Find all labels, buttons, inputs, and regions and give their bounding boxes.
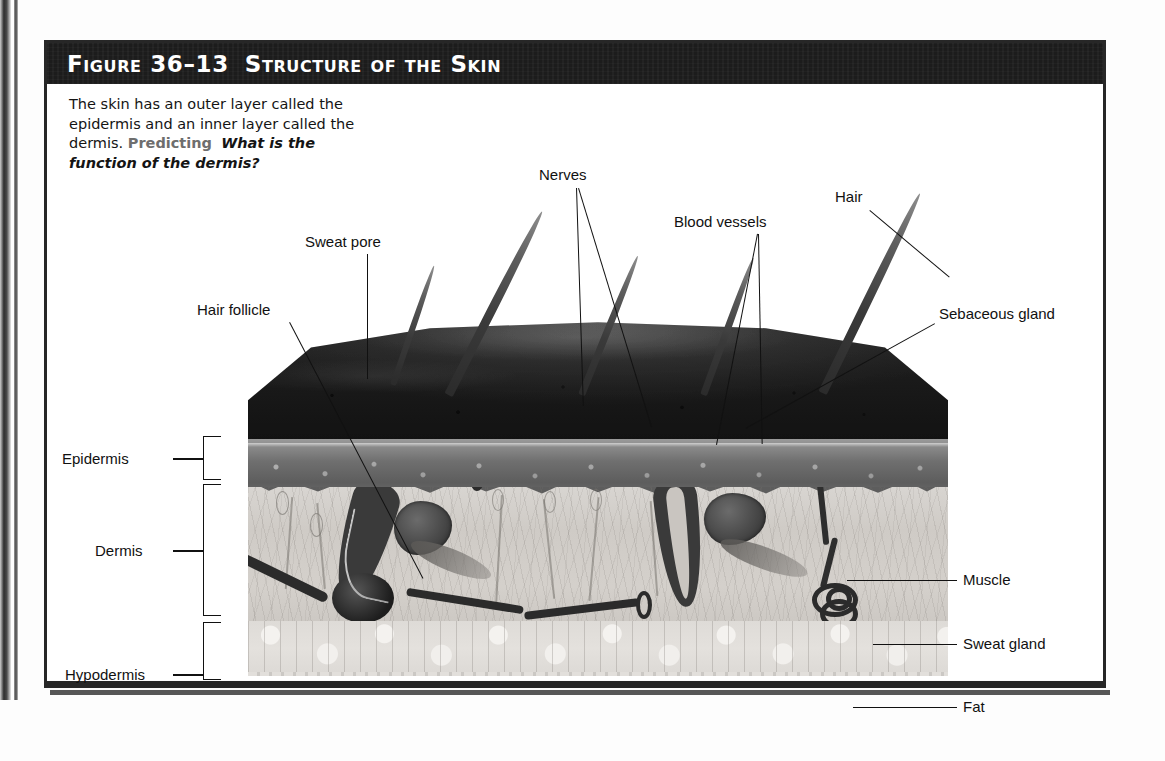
figure-box: Figure 36–13Structure of the Skin The sk… (44, 40, 1106, 688)
epidermis-label: Epidermis (62, 451, 129, 466)
hair-follicle-label: Hair follicle (197, 302, 270, 317)
page-gutter-bar-inner (14, 0, 18, 700)
hair-label: Hair (835, 189, 863, 204)
sensory-corpuscle (492, 489, 504, 511)
sweat-pore-label: Sweat pore (305, 234, 381, 249)
dermis-bracket-leader (173, 550, 203, 552)
hypodermis-label: Hypodermis (65, 667, 145, 682)
hypodermis-bracket (203, 622, 221, 680)
blood-vessels-label: Blood vessels (674, 214, 767, 229)
hypodermis-layer (248, 621, 948, 676)
dermis-layer (248, 487, 948, 629)
muscle-label: Muscle (963, 572, 1011, 587)
figure-title-text: Structure of the Skin (245, 51, 501, 77)
fat-cell-outlines (248, 621, 948, 676)
hypodermis-bracket-leader (173, 674, 203, 676)
sweat-gland-coil (826, 587, 852, 611)
dermis-bracket (203, 484, 221, 616)
skin-diagram: Epidermis Dermis Hypodermis Sweat pore N… (47, 84, 1109, 684)
figure-title-bar: Figure 36–13Structure of the Skin (47, 43, 1103, 84)
page-gutter-bar (0, 0, 11, 700)
nerves-label: Nerves (539, 167, 587, 182)
sweat-pore-leader (367, 254, 368, 379)
sensory-corpuscle (276, 491, 289, 515)
textbook-page: Figure 36–13Structure of the Skin The sk… (0, 0, 1165, 761)
capillary-loop (636, 591, 652, 619)
sweat-gland-label: Sweat gland (963, 636, 1046, 651)
hypodermis-bottom-edge (248, 672, 948, 676)
fat-leader (853, 707, 957, 708)
fat-label: Fat (963, 699, 985, 714)
figure-drop-shadow (50, 690, 1110, 695)
figure-title: Figure 36–13Structure of the Skin (67, 51, 501, 77)
dermis-label: Dermis (95, 543, 143, 558)
epidermis-bracket (203, 436, 221, 480)
sweat-gland-leader (873, 644, 957, 645)
muscle-leader (847, 580, 957, 581)
sensory-corpuscle (310, 513, 323, 537)
sensory-corpuscle (590, 489, 602, 511)
epidermis-bracket-leader (173, 458, 203, 460)
sebaceous-gland-label: Sebaceous gland (939, 306, 1055, 321)
figure-number: Figure 36–13 (67, 51, 229, 77)
sensory-corpuscle (544, 491, 556, 513)
